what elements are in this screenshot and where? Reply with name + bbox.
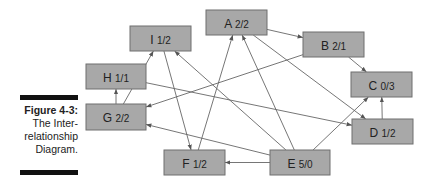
node-c: C 0/3 [351, 72, 412, 97]
edge-b-to-c [349, 57, 367, 72]
node-e: E 5/0 [270, 150, 330, 175]
edge-h-to-d [146, 83, 352, 126]
node-h: H 1/1 [86, 64, 146, 89]
node-f: F 1/2 [164, 150, 225, 175]
node-i: I 1/2 [130, 26, 191, 51]
node-label: A 2/2 [224, 17, 249, 31]
node-a: A 2/2 [206, 10, 267, 35]
edge-i-to-f [164, 51, 191, 150]
node-label: F 1/2 [182, 157, 207, 171]
node-d: D 1/2 [352, 119, 413, 144]
node-label: E 5/0 [287, 157, 313, 171]
node-label: B 2/1 [321, 39, 347, 53]
edge-a-to-b [267, 29, 303, 37]
node-label: I 1/2 [150, 33, 171, 47]
interrelationship-diagram: A 2/2B 2/1C 0/3D 1/2E 5/0F 1/2G 2/2H 1/1… [0, 0, 433, 185]
node-label: H 1/1 [103, 71, 129, 85]
edge-f-to-a [198, 35, 233, 150]
node-label: C 0/3 [369, 79, 395, 93]
node-label: D 1/2 [370, 126, 396, 140]
node-label: G 2/2 [103, 111, 130, 125]
node-b: B 2/1 [303, 32, 364, 57]
edge-e-to-a [242, 35, 294, 150]
node-g: G 2/2 [86, 104, 146, 130]
